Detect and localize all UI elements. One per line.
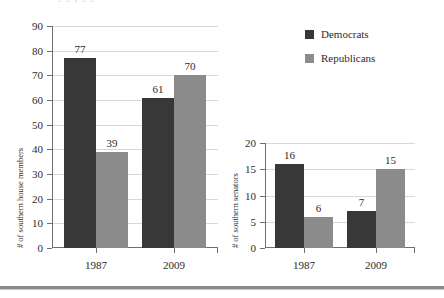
bar-republicans-1987	[96, 152, 128, 248]
y-axis-tick-label: 70	[13, 70, 43, 81]
plot-area-senate: 05101520# of southern senators1661987715…	[265, 143, 415, 248]
bar-republicans-2009	[174, 75, 206, 248]
gridline	[52, 26, 218, 27]
x-axis-tick-label: 1987	[274, 260, 334, 271]
x-axis-tick	[376, 248, 377, 253]
legend-label-democrats: Democrats	[321, 29, 369, 40]
bar-republicans-1987	[304, 217, 333, 249]
legend-swatch-republicans-icon	[305, 54, 314, 63]
chart-southern-house-members: 0102030405060708090# of southern house m…	[52, 26, 218, 248]
y-axis-title: # of southern house members	[16, 148, 25, 248]
bar-democrats-2009	[142, 98, 174, 248]
bar-value-label: 70	[166, 61, 214, 72]
figure-canvas: y y p y y 0102030405060708090# of southe…	[0, 0, 444, 298]
plot-area-house: 0102030405060708090# of southern house m…	[52, 26, 218, 248]
y-axis-tick-label: 80	[13, 46, 43, 57]
x-axis-tick-label: 2009	[346, 260, 406, 271]
y-axis-tick-label: 90	[13, 21, 43, 32]
y-axis-line	[265, 143, 266, 248]
bar-value-label: 39	[88, 138, 136, 149]
bar-democrats-2009	[347, 211, 376, 248]
y-axis-line	[52, 26, 53, 248]
y-axis-title: # of southern senators	[231, 173, 240, 248]
x-axis-tick	[304, 248, 305, 253]
x-axis-tick-label: 2009	[144, 260, 204, 271]
legend-label-republicans: Republicans	[321, 53, 375, 64]
y-axis-tick-label: 20	[226, 138, 256, 149]
x-axis-end-tick	[217, 248, 218, 253]
y-axis-tick-label: 60	[13, 95, 43, 106]
y-axis-tick-label: 50	[13, 120, 43, 131]
legend-item-republicans: Republicans	[305, 50, 375, 67]
bar-value-label: 16	[267, 150, 312, 161]
clipped-caption-above: y y p y y	[58, 0, 428, 3]
x-axis-tick-label: 1987	[66, 260, 126, 271]
gridline	[265, 143, 415, 144]
bar-value-label: 15	[368, 155, 413, 166]
footer-divider	[0, 286, 444, 289]
legend: Democrats Republicans	[305, 26, 375, 74]
y-axis-tick	[47, 248, 52, 249]
x-axis-end-tick	[414, 248, 415, 253]
legend-swatch-democrats-icon	[305, 30, 314, 39]
chart-southern-senators: 05101520# of southern senators1661987715…	[265, 143, 415, 248]
legend-item-democrats: Democrats	[305, 26, 375, 43]
y-axis-tick	[260, 248, 265, 249]
bar-value-label: 77	[56, 44, 104, 55]
x-axis-tick	[96, 248, 97, 253]
bar-democrats-1987	[64, 58, 96, 248]
x-axis-tick	[174, 248, 175, 253]
bar-republicans-2009	[376, 169, 405, 248]
bar-value-label: 6	[296, 203, 341, 214]
